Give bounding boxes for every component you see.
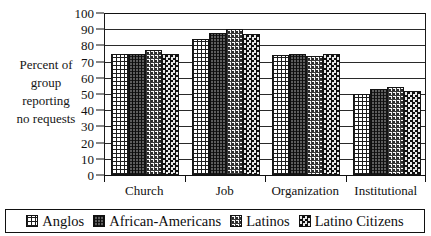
y-tick-label: 60: [81, 71, 94, 84]
x-tick-label: Church: [125, 183, 163, 199]
x-tick-mark: [265, 175, 266, 182]
legend-label: Latino Citizens: [315, 214, 404, 229]
y-tick-label: 30: [81, 120, 94, 133]
bar: [145, 50, 162, 175]
legend-item[interactable]: African-Americans: [93, 214, 221, 229]
y-tick-mark: [96, 94, 104, 95]
y-tick-mark: [96, 13, 104, 14]
y-tick-label: 70: [81, 55, 94, 68]
bar-chart: Percent of group reporting no requests 1…: [0, 0, 431, 236]
bar: [226, 29, 243, 175]
legend-swatch-icon: [299, 215, 311, 227]
x-tick-mark: [425, 175, 426, 182]
bar: [323, 54, 340, 175]
y-tick-label: 20: [81, 136, 94, 149]
bar: [128, 54, 145, 175]
x-tick-mark: [346, 175, 347, 182]
x-tick-label: Organization: [271, 183, 339, 199]
y-tick-mark: [96, 110, 104, 111]
x-tick-mark: [104, 175, 105, 182]
legend-label: Latinos: [246, 214, 290, 229]
bar: [272, 55, 289, 175]
y-axis-ticks: 1009080706050403020100: [60, 13, 104, 175]
legend-label: African-Americans: [109, 214, 221, 229]
y-tick-label: 80: [81, 39, 94, 52]
bar-group: [192, 13, 260, 175]
y-tick-label: 50: [81, 88, 94, 101]
bar: [387, 87, 404, 175]
plot-area: [104, 13, 426, 175]
legend-item[interactable]: Latino Citizens: [299, 214, 404, 229]
bar: [289, 54, 306, 176]
bar: [162, 54, 179, 176]
bar: [209, 33, 226, 175]
bar: [243, 34, 260, 175]
bar: [192, 39, 209, 175]
bars-layer: [105, 13, 425, 175]
y-tick-label: 40: [81, 104, 94, 117]
bar: [306, 56, 323, 175]
y-tick-mark: [96, 61, 104, 62]
bar: [353, 94, 370, 175]
x-tick-mark: [185, 175, 186, 182]
legend-item[interactable]: Latinos: [230, 214, 290, 229]
y-tick-label: 90: [81, 23, 94, 36]
bar-group: [111, 13, 179, 175]
legend-swatch-icon: [26, 215, 38, 227]
y-tick-label: 10: [81, 152, 94, 165]
x-axis-ticks: [104, 175, 426, 183]
y-tick-mark: [96, 175, 104, 176]
legend-label: Anglos: [42, 214, 84, 229]
legend: AnglosAfrican-AmericansLatinosLatino Cit…: [5, 209, 425, 233]
bar: [111, 54, 128, 176]
legend-swatch-icon: [93, 215, 105, 227]
y-tick-label: 100: [75, 7, 95, 20]
y-tick-mark: [96, 29, 104, 30]
legend-item[interactable]: Anglos: [26, 214, 84, 229]
y-tick-label: 0: [88, 169, 95, 182]
x-axis-labels: ChurchJobOrganizationInstitutional: [104, 183, 426, 201]
bar-group: [272, 13, 340, 175]
y-tick-mark: [96, 158, 104, 159]
legend-swatch-icon: [230, 215, 242, 227]
bar-group: [353, 13, 421, 175]
y-tick-mark: [96, 77, 104, 78]
x-tick-label: Institutional: [354, 183, 417, 199]
bar: [370, 89, 387, 175]
y-tick-mark: [96, 45, 104, 46]
x-tick-label: Job: [216, 183, 234, 199]
y-tick-mark: [96, 142, 104, 143]
y-tick-mark: [96, 126, 104, 127]
bar: [404, 91, 421, 175]
